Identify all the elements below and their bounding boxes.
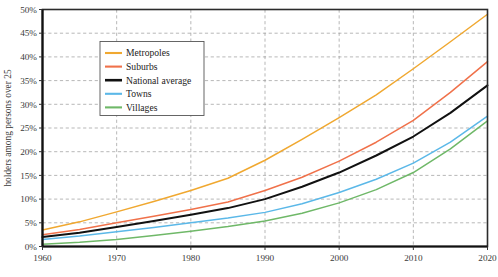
y-axis-title: holders among persons over 25 bbox=[3, 69, 13, 186]
y-tick-label: 50% bbox=[20, 5, 37, 15]
x-tick-label: 1980 bbox=[182, 253, 201, 263]
y-tick-label: 40% bbox=[20, 52, 37, 62]
x-tick-label: 2010 bbox=[404, 253, 423, 263]
y-tick-label: 0% bbox=[25, 242, 38, 252]
x-tick-label: 2020 bbox=[478, 253, 497, 263]
legend-label-suburbs: Suburbs bbox=[126, 61, 158, 72]
legend-label-national-average: National average bbox=[126, 75, 191, 86]
legend-label-towns: Towns bbox=[126, 88, 152, 99]
y-tick-label: 35% bbox=[20, 76, 37, 86]
y-tick-label: 15% bbox=[20, 171, 37, 181]
y-tick-label: 10% bbox=[20, 194, 37, 204]
y-tick-label: 25% bbox=[20, 123, 37, 133]
line-chart: 0%5%10%15%20%25%30%35%40%45%50%196019701… bbox=[0, 0, 498, 277]
y-tick-label: 5% bbox=[25, 218, 38, 228]
y-tick-label: 20% bbox=[20, 147, 37, 157]
y-tick-label: 45% bbox=[20, 28, 37, 38]
chart-figure: 0%5%10%15%20%25%30%35%40%45%50%196019701… bbox=[0, 0, 498, 277]
x-tick-label: 1970 bbox=[107, 253, 126, 263]
x-tick-label: 1990 bbox=[256, 253, 275, 263]
y-tick-label: 30% bbox=[20, 100, 37, 110]
x-tick-label: 1960 bbox=[33, 253, 52, 263]
legend-label-metropoles: Metropoles bbox=[126, 47, 170, 58]
legend-label-villages: Villages bbox=[126, 102, 158, 113]
x-tick-label: 2000 bbox=[330, 253, 349, 263]
